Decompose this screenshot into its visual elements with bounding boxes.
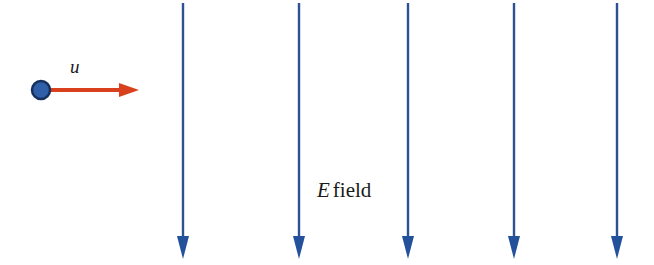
field-line-arrowhead [611,236,623,259]
field-line-arrowhead [508,236,520,259]
velocity-label: u [70,57,80,76]
velocity-arrow-head [119,83,139,97]
efield-word: field [333,178,371,202]
field-lines-group [177,3,623,259]
efield-symbol: E [317,178,333,202]
efield-diagram: u Efield [0,0,654,265]
efield-label: Efield [317,180,371,201]
velocity-arrow-group [45,83,139,97]
particle-group [32,81,50,99]
charged-particle [32,81,50,99]
field-line-arrowhead [293,236,305,259]
field-line-arrowhead [177,236,189,259]
diagram-canvas [0,0,654,265]
field-line-arrowhead [402,236,414,259]
